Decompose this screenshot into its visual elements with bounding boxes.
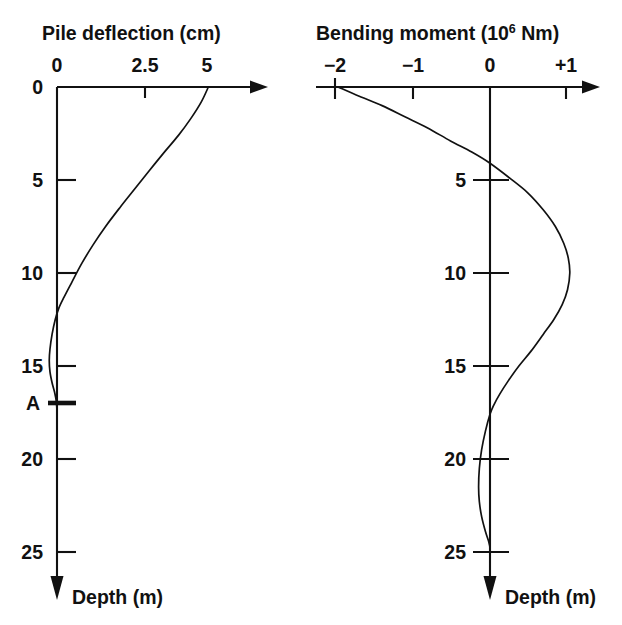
right-x-tick-label-0: 0	[485, 54, 496, 76]
right-x-tick-label-minus1: −1	[402, 54, 424, 76]
right-x-tick-label-minus2: −2	[324, 54, 346, 76]
right-chart-title-suffix: Nm)	[516, 22, 559, 44]
left-depth-caption: Depth (m)	[72, 586, 163, 608]
left-chart-title: Pile deflection (cm)	[42, 22, 221, 44]
left-depth-label-0: 0	[32, 76, 43, 98]
left-depth-label-a: A	[26, 392, 40, 414]
bending-moment-curve	[338, 87, 570, 561]
right-chart-title-prefix: Bending moment (10	[316, 22, 509, 44]
left-x-tick-label-5: 5	[202, 54, 213, 76]
right-depth-axis-arrow	[484, 576, 497, 600]
chart-canvas: Pile deflection (cm) 0 2.5 5 0 5 10	[0, 0, 622, 625]
figure-root: Pile deflection (cm) 0 2.5 5 0 5 10	[0, 0, 622, 625]
right-depth-label-15: 15	[444, 355, 466, 377]
right-chart-title-superscript: 6	[509, 22, 516, 36]
left-depth-axis-arrow	[51, 576, 64, 600]
left-depth-label-25: 25	[21, 541, 43, 563]
right-horizontal-axis-arrow	[582, 81, 600, 94]
left-depth-label-15: 15	[21, 355, 43, 377]
pile-deflection-curve	[49, 87, 208, 561]
right-depth-caption: Depth (m)	[505, 586, 596, 608]
right-depth-label-5: 5	[455, 169, 466, 191]
right-chart-group: Bending moment (106 Nm) −2 −1 0 +1	[316, 22, 600, 608]
left-chart-group: Pile deflection (cm) 0 2.5 5 0 5 10	[21, 22, 268, 608]
left-horizontal-axis-arrow	[250, 81, 268, 94]
left-depth-label-10: 10	[21, 262, 43, 284]
left-x-tick-label-2p5: 2.5	[131, 54, 158, 76]
left-depth-label-5: 5	[32, 169, 43, 191]
right-depth-label-20: 20	[444, 448, 466, 470]
right-chart-title: Bending moment (106 Nm)	[316, 22, 559, 44]
right-x-tick-label-plus1: +1	[555, 54, 577, 76]
left-x-tick-label-0: 0	[52, 54, 63, 76]
right-depth-label-25: 25	[444, 541, 466, 563]
right-depth-label-10: 10	[444, 262, 466, 284]
left-depth-label-20: 20	[21, 448, 43, 470]
